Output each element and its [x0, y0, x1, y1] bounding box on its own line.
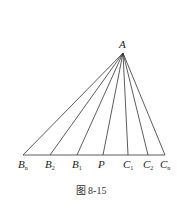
segment-a-bn: [23, 53, 123, 155]
point-label-b1: B1: [72, 158, 82, 171]
segment-a-c1: [123, 53, 128, 155]
segments-group: [23, 53, 165, 155]
point-label-bn: Bn: [18, 158, 28, 171]
point-label-cn: Cn: [160, 158, 170, 171]
point-label-b2: B2: [45, 158, 55, 171]
segment-a-b2: [50, 53, 123, 155]
segment-a-b1: [77, 53, 123, 155]
figure-caption: 图 8-15: [76, 185, 107, 196]
figure-diagram: BnB2B1PC1C2Cn A 图 8-15: [0, 0, 183, 201]
segment-a-p: [103, 53, 123, 155]
point-label-c2: C2: [143, 158, 153, 171]
apex-label-a: A: [118, 38, 126, 50]
point-label-p: P: [97, 158, 105, 170]
point-label-c1: C1: [123, 158, 133, 171]
point-labels-group: BnB2B1PC1C2Cn: [18, 158, 170, 171]
